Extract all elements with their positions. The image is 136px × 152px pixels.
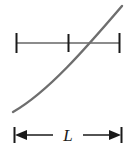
length-label: L [62,126,72,145]
figure-diagram: L [0,0,136,152]
figure-container: L [0,0,136,152]
